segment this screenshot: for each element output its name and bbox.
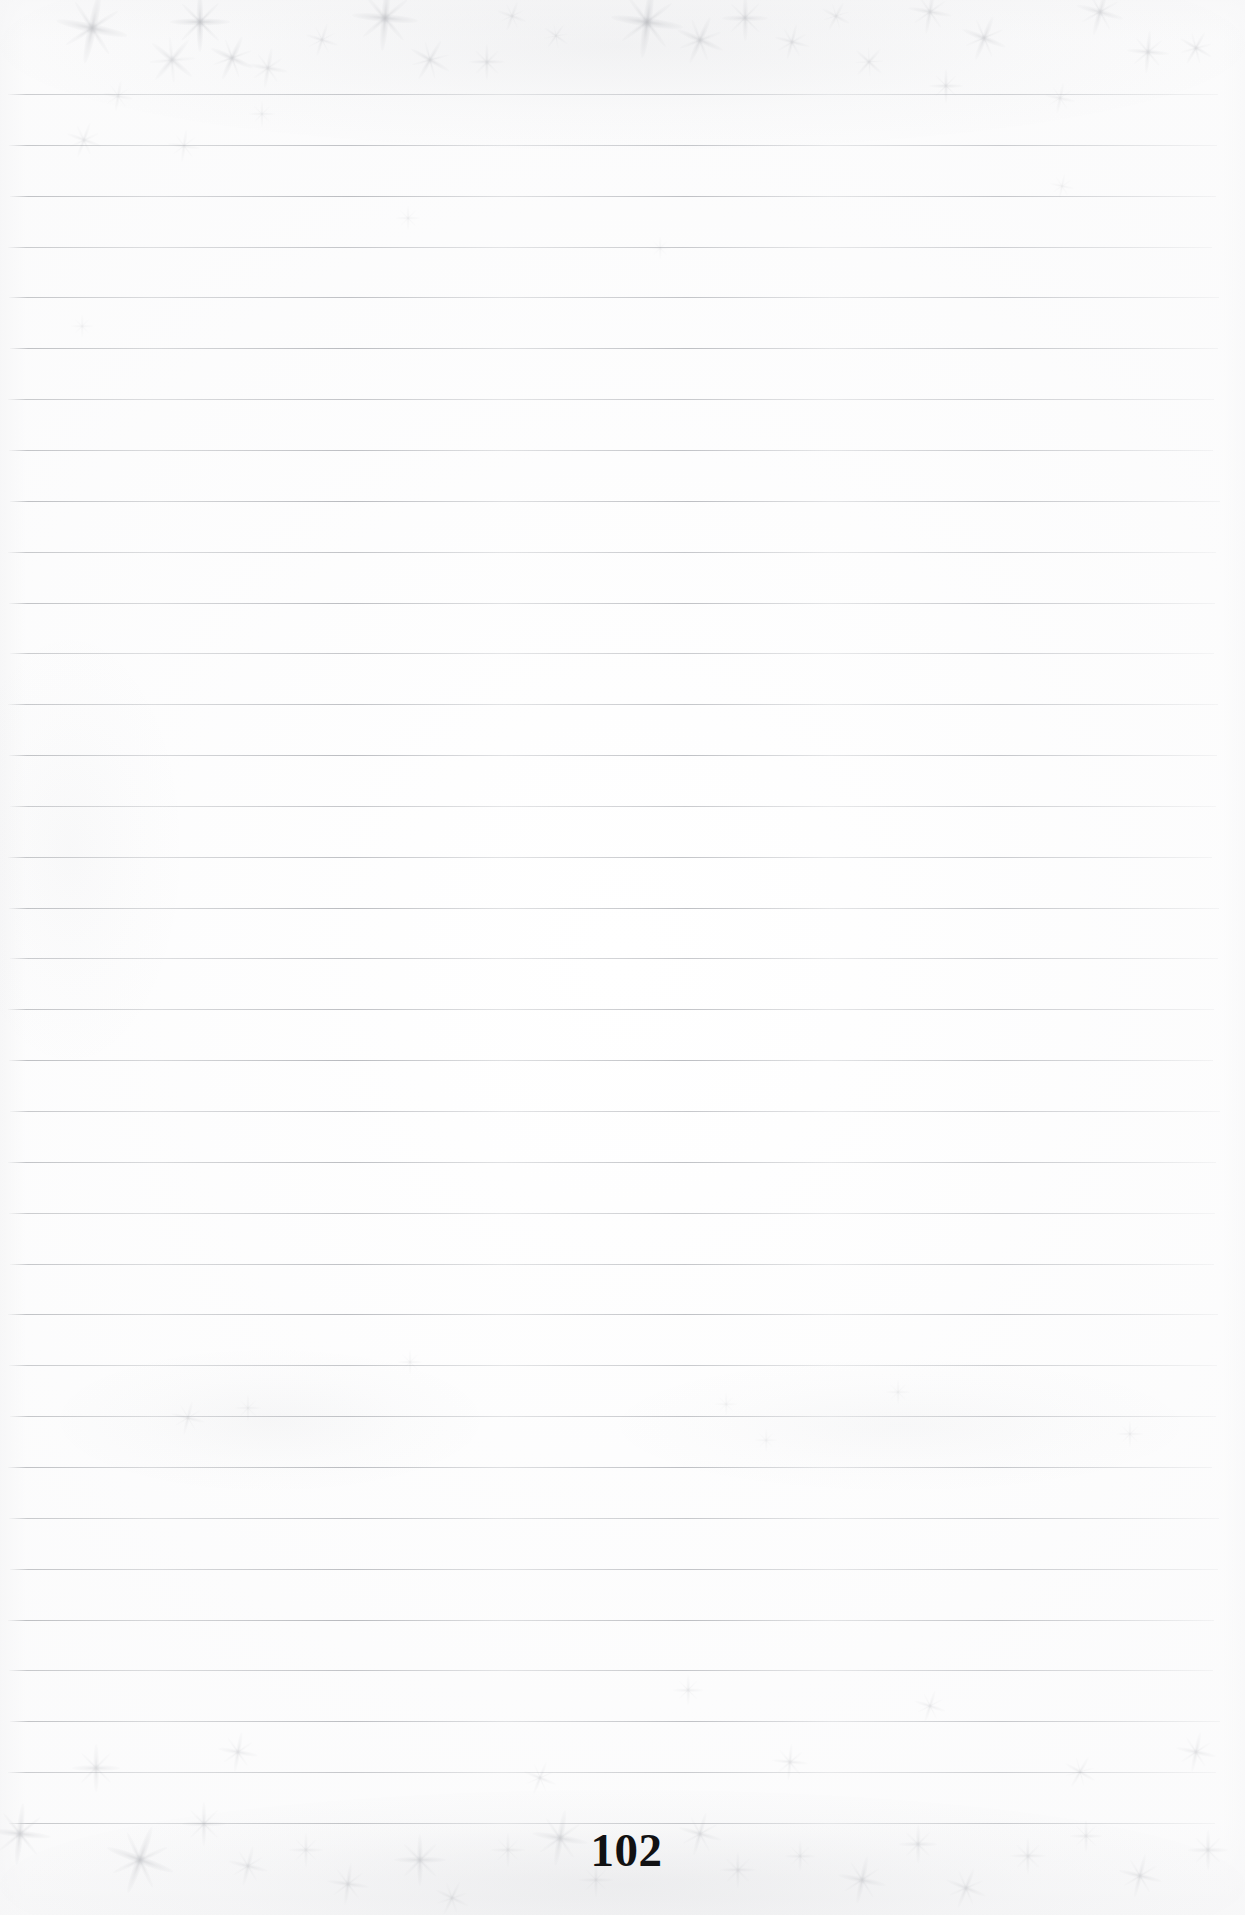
sparkle-ray (621, 1, 673, 42)
sparkle-ray (1089, 0, 1112, 31)
sparkle-core (943, 83, 948, 88)
sparkle-core (741, 14, 748, 21)
sparkle-core (264, 64, 271, 71)
sparkle-ray (653, 241, 667, 255)
sparkle-ray (437, 1892, 467, 1904)
sparkle-artifact-icon (61, 117, 107, 163)
sparkle-ray (678, 1680, 698, 1700)
sparkle-ray (730, 3, 760, 33)
sparkle-ray (1075, 1758, 1085, 1787)
sparkle-artifact-icon (1057, 1749, 1103, 1795)
rule-line (10, 501, 1220, 502)
sparkle-artifact-icon (201, 27, 262, 88)
sparkle-ray (759, 1433, 773, 1447)
sparkle-ray (653, 241, 667, 255)
sparkle-ray (224, 39, 241, 77)
sparkle-ray (1066, 1767, 1095, 1777)
rule-line (9, 908, 1219, 909)
sparkle-ray (935, 75, 957, 97)
sparkle-ray (626, 0, 667, 48)
sparkle-ray (1185, 1737, 1206, 1767)
sparkle-ray (180, 2, 219, 41)
notebook-page: 102 (0, 0, 1245, 1915)
sparkle-ray (179, 1405, 196, 1431)
sparkle-core (787, 1759, 793, 1765)
paper-background-tint (0, 0, 1245, 1915)
sparkle-artifact-icon (101, 79, 136, 114)
sparkle-ray (779, 1749, 801, 1774)
sparkle-artifact-icon (1172, 1728, 1219, 1775)
sparkle-artifact-icon (667, 7, 733, 73)
sparkle-artifact-icon (72, 1744, 120, 1792)
rule-line (8, 94, 1218, 95)
scan-haze-blob (60, 1350, 480, 1490)
sparkle-ray (172, 137, 195, 155)
sparkle-ray (168, 38, 176, 83)
sparkle-ray (914, 0, 947, 24)
sparkle-ray (1135, 37, 1160, 67)
rule-line (8, 1772, 1216, 1773)
sparkle-ray (854, 60, 883, 64)
sparkle-ray (553, 24, 559, 48)
rule-line (8, 1009, 1214, 1010)
sparkle-artifact-icon (770, 20, 814, 64)
sparkle-ray (1191, 33, 1201, 64)
sparkle-ray (506, 4, 519, 28)
sparkle-ray (679, 31, 720, 50)
rule-line (9, 1213, 1215, 1214)
sparkle-ray (411, 54, 448, 67)
rule-line (8, 857, 1212, 858)
sparkle-ray (365, 0, 405, 41)
scan-sparkle-artifacts-layer (0, 0, 1245, 1915)
sparkle-core (1144, 48, 1151, 55)
sparkle-core (788, 38, 795, 45)
sparkle-artifact-icon (235, 1395, 261, 1421)
sparkle-artifact-icon (905, 0, 956, 37)
sparkle-artifact-icon (1042, 80, 1078, 116)
sparkle-artifact-icon (428, 1874, 476, 1915)
sparkle-core (379, 12, 390, 23)
sparkle-ray (180, 2, 219, 41)
sparkle-artifact-icon (649, 237, 671, 259)
sparkle-ray (544, 33, 568, 39)
sparkle-artifact-icon (1048, 172, 1076, 200)
sparkle-core (425, 55, 435, 65)
sparkle-core (166, 54, 178, 66)
sparkle-ray (150, 56, 195, 64)
rule-line (8, 247, 1212, 248)
sparkle-core (593, 1877, 598, 1882)
sparkle-artifact-icon (722, 0, 768, 41)
sparkle-core (857, 1875, 866, 1884)
sparkle-artifact-icon (770, 1742, 809, 1781)
rule-line (9, 755, 1217, 756)
sparkle-ray (949, 1880, 983, 1897)
sparkle-core (406, 216, 410, 220)
sparkle-artifact-icon (493, 0, 531, 35)
sparkle-ray (308, 32, 335, 47)
sparkle-ray (1133, 39, 1163, 64)
sparkle-ray (777, 1751, 802, 1773)
sparkle-ray (73, 1, 111, 56)
sparkle-artifact-icon (396, 206, 420, 230)
sparkle-artifact-icon (1070, 0, 1129, 42)
sparkle-core (927, 1703, 933, 1709)
rule-line (10, 1264, 1214, 1265)
sparkle-artifact-icon (1125, 29, 1171, 75)
sparkle-core (658, 246, 662, 250)
sparkle-artifact-icon (349, 0, 421, 54)
sparkle-ray (253, 105, 270, 122)
sparkle-core (962, 1884, 971, 1893)
rule-line (10, 1721, 1220, 1722)
rule-line (10, 653, 1214, 654)
sparkle-ray (402, 1354, 418, 1370)
sparkle-core (195, 17, 205, 27)
sparkle-ray (402, 1354, 418, 1370)
sparkle-ray (526, 1771, 554, 1785)
sparkle-ray (75, 319, 89, 333)
scan-haze-blob (620, 1360, 1180, 1490)
sparkle-artifact-icon (886, 1380, 910, 1404)
sparkle-ray (257, 53, 279, 83)
rule-line (9, 1060, 1213, 1061)
sparkle-core (1076, 1768, 1083, 1775)
rule-line (9, 1518, 1219, 1519)
